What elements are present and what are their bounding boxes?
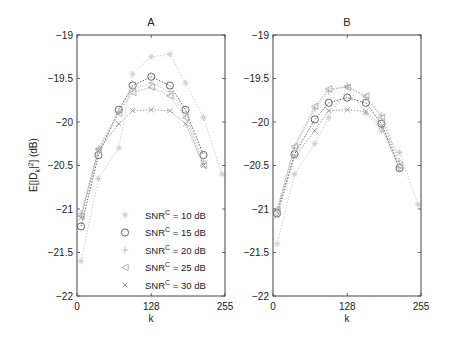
panel-a-ticks: −19−19.5−20−20.5−21−21.5−220128255 (48, 30, 234, 313)
series-curve (81, 110, 203, 218)
panel-b-xlabel: k (345, 313, 351, 324)
y-tick-label: −19.5 (244, 73, 270, 84)
x-tick-label: 255 (217, 301, 234, 312)
circle-marker (311, 116, 318, 123)
legend-item: SNRC = 15 dB (121, 226, 205, 238)
x-tick-label: 128 (143, 301, 160, 312)
legend-item: SNRC = 25 dB (122, 261, 206, 273)
asterisk-marker (167, 51, 173, 57)
asterisk-marker (274, 241, 280, 247)
chart-canvas: A −19−19.5−20−20.5−21−21.5−220128255 k S… (0, 0, 452, 346)
x-marker (116, 121, 121, 126)
series-circle (77, 73, 207, 230)
y-tick-label: −20.5 (48, 160, 74, 171)
plus-marker (148, 80, 154, 86)
panel-b: B −19−19.5−20−20.5−21−21.5−220128255 k (244, 16, 430, 324)
triangle-left-marker (122, 264, 128, 270)
asterisk-marker (219, 171, 225, 177)
y-tick-label: −19 (56, 30, 73, 41)
series-x (79, 107, 207, 220)
y-tick-label: −20.5 (244, 160, 270, 171)
series-x (275, 107, 403, 218)
plus-marker (122, 247, 128, 253)
panel-b-series (273, 82, 421, 247)
legend-item: SNRC = 10 dB (122, 209, 206, 221)
asterisk-marker (291, 171, 297, 177)
asterisk-marker (122, 212, 128, 218)
asterisk-marker (78, 258, 84, 264)
series-curve (277, 86, 399, 210)
y-tick-label: −21 (56, 204, 73, 215)
legend-label: SNRC = 15 dB (145, 226, 206, 238)
series-asterisk (274, 84, 421, 247)
legend-label: SNRC = 25 dB (145, 261, 206, 273)
legend-label: SNRC = 20 dB (145, 244, 206, 256)
circle-marker (344, 94, 351, 101)
legend-label: SNRC = 10 dB (145, 209, 206, 221)
asterisk-marker (326, 114, 332, 120)
asterisk-marker (200, 114, 206, 120)
legend-item: SNRC = 20 dB (122, 244, 206, 256)
asterisk-marker (312, 141, 318, 147)
x-tick-label: 255 (413, 301, 430, 312)
y-tick-label: −22 (252, 291, 269, 302)
panel-a-xlabel: k (149, 313, 155, 324)
x-tick-label: 128 (339, 301, 356, 312)
panel-a-legend: SNRC = 10 dBSNRC = 15 dBSNRC = 20 dBSNRC… (121, 209, 205, 291)
panel-b-title: B (343, 16, 350, 28)
asterisk-marker (130, 71, 136, 77)
asterisk-marker (148, 54, 154, 60)
plus-marker (182, 110, 188, 116)
series-plus (78, 80, 207, 217)
panel-a: A −19−19.5−20−20.5−21−21.5−220128255 k S… (48, 16, 234, 324)
legend-label: SNRC = 30 dB (145, 279, 206, 291)
y-tick-label: −21 (252, 204, 269, 215)
y-tick-label: −19.5 (48, 73, 74, 84)
y-tick-label: −19 (252, 30, 269, 41)
asterisk-marker (415, 201, 421, 207)
circle-marker (121, 229, 128, 236)
circle-marker (77, 223, 84, 230)
y-tick-label: −20 (56, 117, 73, 128)
asterisk-marker (182, 80, 188, 86)
series-triangle-left (274, 84, 403, 214)
x-marker (312, 128, 317, 133)
panel-b-axes-box (273, 35, 421, 296)
x-marker (183, 121, 188, 126)
x-tick-label: 0 (270, 301, 276, 312)
y-tick-label: −21.5 (244, 247, 270, 258)
x-tick-label: 0 (74, 301, 80, 312)
y-tick-label: −20 (252, 117, 269, 128)
y-tick-label: −21.5 (48, 247, 74, 258)
asterisk-marker (95, 175, 101, 181)
y-tick-label: −22 (56, 291, 73, 302)
x-marker (122, 282, 127, 287)
asterisk-marker (116, 145, 122, 151)
panel-a-title: A (147, 16, 155, 28)
panel-a-axes-box (77, 35, 225, 296)
y-axis-label: E[|Dk|2] (dB) (27, 138, 41, 192)
legend-item: SNRC = 30 dB (122, 279, 205, 291)
